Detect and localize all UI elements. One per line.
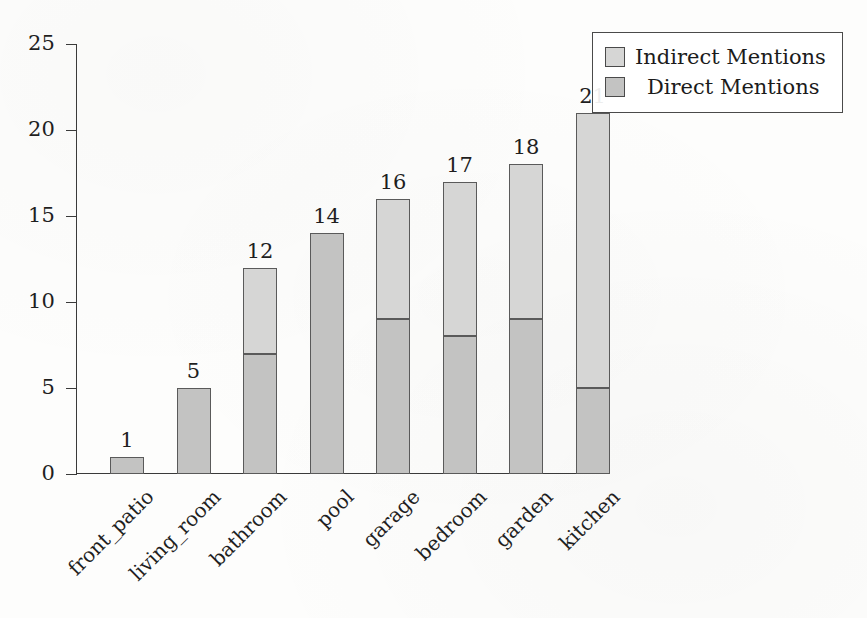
legend-swatch-direct-icon <box>605 77 625 97</box>
bar-value-label: 14 <box>313 206 340 227</box>
bar-value-label: 17 <box>446 155 473 176</box>
bar-value-label: 16 <box>380 172 407 193</box>
bar-kitchen[interactable]: 21 <box>576 113 610 474</box>
bar-value-label: 1 <box>120 430 133 451</box>
stacked-bar-chart: 0510152025 15121416171821 front_patioliv… <box>0 0 867 618</box>
legend-label-indirect: Indirect Mentions <box>635 47 826 68</box>
bar-value-label: 5 <box>187 361 200 382</box>
bar-segment-indirect[interactable] <box>576 113 610 388</box>
bar-segment-indirect[interactable] <box>243 268 277 354</box>
bar-value-label: 12 <box>247 241 274 262</box>
bar-front_patio[interactable]: 1 <box>110 457 144 474</box>
bar-bedroom[interactable]: 17 <box>443 182 477 474</box>
bar-garage[interactable]: 16 <box>376 199 410 474</box>
chart-legend: Indirect Mentions Direct Mentions <box>592 32 843 113</box>
legend-swatch-indirect-icon <box>605 47 625 67</box>
bar-value-label: 18 <box>513 137 540 158</box>
bar-segment-indirect[interactable] <box>376 199 410 319</box>
legend-label-direct: Direct Mentions <box>635 77 819 98</box>
bar-segment-indirect[interactable] <box>443 182 477 337</box>
bar-segment-direct[interactable] <box>110 457 144 474</box>
bar-segment-direct[interactable] <box>376 319 410 474</box>
legend-item-direct-mentions: Direct Mentions <box>605 72 826 102</box>
bar-segment-indirect[interactable] <box>509 164 543 319</box>
legend-item-indirect-mentions: Indirect Mentions <box>605 42 826 72</box>
